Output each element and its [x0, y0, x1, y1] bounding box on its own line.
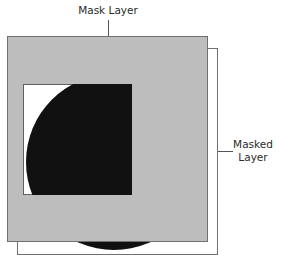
masked-layer-label-line2: Layer — [238, 151, 268, 163]
masked-layer-label-line1: Masked — [233, 138, 273, 150]
mask-layer-label: Mask Layer — [78, 4, 138, 16]
mask-diagram: Mask Layer Masked Layer — [0, 0, 281, 265]
